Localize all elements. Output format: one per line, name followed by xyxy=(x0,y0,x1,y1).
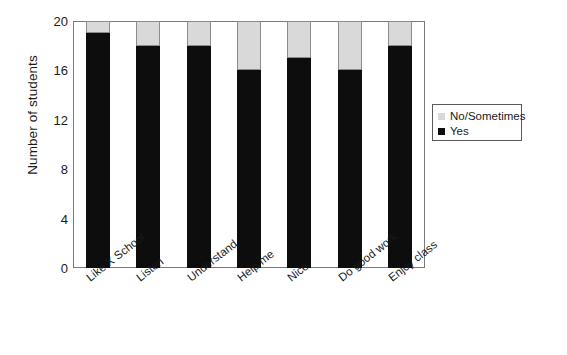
bar-segment-yes xyxy=(86,33,110,268)
legend-item: No/Sometimes xyxy=(438,109,521,123)
bars-layer xyxy=(73,21,425,268)
y-tick-label: 4 xyxy=(40,213,68,226)
bar-group xyxy=(86,21,110,268)
bar-segment-yes xyxy=(287,58,311,268)
y-axis-tick-labels: 048121620 xyxy=(40,0,68,355)
y-tick-label: 12 xyxy=(40,114,68,127)
legend-swatch-icon xyxy=(438,128,445,135)
bar-segment-no-sometimes xyxy=(338,21,362,70)
legend-item: Yes xyxy=(438,124,521,138)
bar-segment-no-sometimes xyxy=(287,21,311,58)
bar-segment-no-sometimes xyxy=(388,21,412,46)
bar-segment-yes xyxy=(187,46,211,268)
y-tick-label: 16 xyxy=(40,64,68,77)
bar-segment-no-sometimes xyxy=(237,21,261,70)
x-axis-tick-labels: Like X SchoolListenUnderstandHelp meNice… xyxy=(73,268,425,355)
y-tick-label: 0 xyxy=(40,262,68,275)
bar-segment-yes xyxy=(338,70,362,268)
bar-group xyxy=(287,21,311,268)
bar-group xyxy=(338,21,362,268)
legend-label: No/Sometimes xyxy=(450,110,525,122)
legend: No/SometimesYes xyxy=(432,104,522,141)
bar-group xyxy=(237,21,261,268)
bar-segment-no-sometimes xyxy=(136,21,160,46)
bar-segment-no-sometimes xyxy=(187,21,211,46)
bar-segment-no-sometimes xyxy=(86,21,110,33)
legend-label: Yes xyxy=(450,125,469,137)
y-tick-label: 20 xyxy=(40,15,68,28)
stacked-bar-chart: Number of students 048121620 Like X Scho… xyxy=(0,0,567,355)
y-tick-label: 8 xyxy=(40,163,68,176)
bar-segment-yes xyxy=(237,70,261,268)
legend-swatch-icon xyxy=(438,113,445,120)
bar-group xyxy=(187,21,211,268)
